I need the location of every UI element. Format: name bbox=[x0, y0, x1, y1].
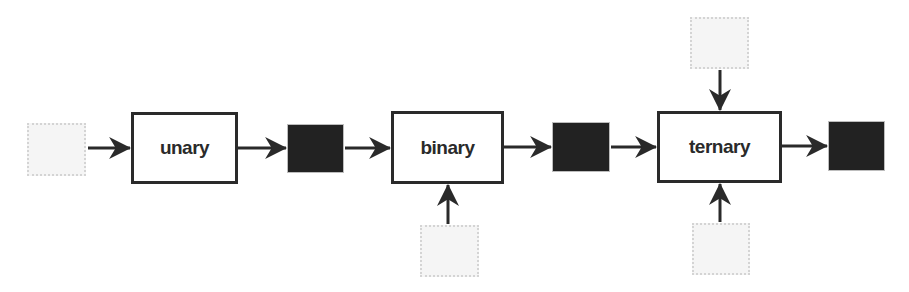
operator-ternary: ternary bbox=[657, 111, 782, 183]
input-node-binary-bottom bbox=[420, 225, 479, 277]
operator-label: ternary bbox=[689, 136, 750, 158]
input-node-unary bbox=[27, 123, 86, 176]
diagram-canvas: unary binary ternary bbox=[0, 0, 909, 292]
operator-unary: unary bbox=[131, 112, 238, 184]
operator-binary: binary bbox=[391, 111, 504, 184]
operator-label: unary bbox=[160, 137, 209, 159]
input-node-ternary-top bbox=[690, 17, 749, 69]
operator-label: binary bbox=[420, 137, 474, 159]
input-node-ternary-bottom bbox=[692, 223, 750, 275]
output-node-binary bbox=[552, 122, 610, 172]
output-node-unary bbox=[287, 124, 344, 173]
output-node-ternary bbox=[828, 121, 885, 171]
